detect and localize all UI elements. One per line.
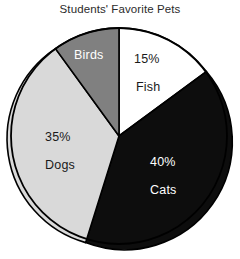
pie-label-dogs-name: Dogs: [45, 158, 75, 172]
pie-label-fish-percent: 15%: [134, 52, 160, 66]
pie-label-fish-name: Fish: [136, 80, 160, 94]
pie-label-dogs-percent: 35%: [45, 130, 71, 144]
pie-label-cats-name: Cats: [150, 183, 177, 197]
pie-chart-graphic: [0, 0, 240, 259]
pie-chart-figure: Students' Favorite Pets 15% Fish 40% Cat…: [0, 0, 240, 259]
pie-label-cats-percent: 40%: [150, 155, 176, 169]
pie-label-birds-name: Birds: [74, 48, 103, 62]
